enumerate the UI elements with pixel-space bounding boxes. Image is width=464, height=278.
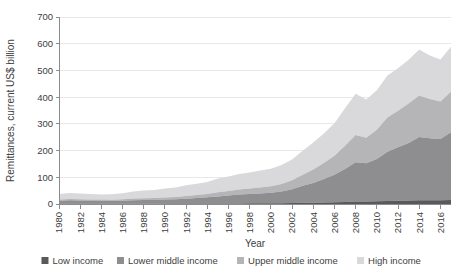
x-tick-label-2016: 2016 [435,212,446,233]
x-tick-label-1998: 1998 [244,212,255,233]
legend-label-low-income[interactable]: Low income [52,255,103,266]
y-tick-label-500: 500 [37,65,53,76]
x-axis-group: 1980198219841986198819901992199419961998… [53,205,451,234]
legend-swatch-lower-middle-income[interactable] [117,257,124,264]
x-tick-label-1988: 1988 [138,212,149,233]
y-axis-title: Remittances, current US$ billion [5,39,16,182]
legend-group: Low incomeLower middle incomeUpper middl… [41,255,420,266]
x-tick-label-2004: 2004 [308,212,319,233]
x-tick-label-2006: 2006 [329,212,340,233]
y-tick-label-400: 400 [37,92,53,103]
x-tick-label-1994: 1994 [202,212,213,233]
y-tick-label-600: 600 [37,38,53,49]
x-tick-label-1984: 1984 [96,212,107,233]
legend-label-upper-middle-income[interactable]: Upper middle income [248,255,338,266]
x-tick-label-2010: 2010 [371,212,382,233]
x-tick-label-1980: 1980 [53,212,64,233]
x-tick-label-2008: 2008 [350,212,361,233]
x-tick-label-2000: 2000 [265,212,276,233]
x-tick-label-2002: 2002 [286,212,297,233]
y-tick-label-200: 200 [37,145,53,156]
legend-swatch-low-income[interactable] [41,257,48,264]
y-tick-label-300: 300 [37,118,53,129]
legend-label-high-income[interactable]: High income [368,255,421,266]
x-tick-label-2014: 2014 [414,212,425,233]
x-tick-label-1982: 1982 [75,212,86,233]
y-tick-label-100: 100 [37,172,53,183]
x-axis-title: Year [245,238,266,249]
y-tick-label-0: 0 [48,198,53,209]
y-axis-group: 0100200300400500600700 [37,11,59,209]
x-tick-label-2012: 2012 [392,212,403,233]
legend-swatch-high-income[interactable] [357,257,364,264]
x-tick-label-1996: 1996 [223,212,234,233]
legend-label-lower-middle-income[interactable]: Lower middle income [128,255,218,266]
remittances-stacked-area-chart: 0100200300400500600700 19801982198419861… [0,0,464,278]
legend-swatch-upper-middle-income[interactable] [237,257,244,264]
x-tick-label-1986: 1986 [117,212,128,233]
x-tick-label-1992: 1992 [181,212,192,233]
x-tick-label-1990: 1990 [159,212,170,233]
y-tick-label-700: 700 [37,11,53,22]
chart-canvas: 0100200300400500600700 19801982198419861… [0,0,464,278]
